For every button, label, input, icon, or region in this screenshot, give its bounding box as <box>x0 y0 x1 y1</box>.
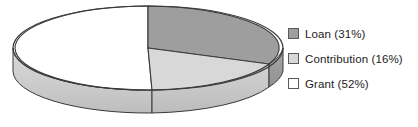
legend-label-grant: Grant (52%) <box>305 78 369 90</box>
legend-swatch-grant <box>288 78 299 89</box>
legend-swatch-contribution <box>288 53 299 64</box>
legend-swatch-loan <box>288 28 299 39</box>
legend-item-loan[interactable]: Loan (31%) <box>288 21 418 46</box>
pie-top-face <box>13 6 283 90</box>
legend-item-grant[interactable]: Grant (52%) <box>288 71 418 96</box>
pie-chart-figure: Loan (31%) Contribution (16%) Grant (52%… <box>0 0 418 127</box>
legend-label-contribution: Contribution (16%) <box>305 53 403 65</box>
chart-legend: Loan (31%) Contribution (16%) Grant (52%… <box>288 21 418 96</box>
legend-item-contribution[interactable]: Contribution (16%) <box>288 46 418 71</box>
legend-label-loan: Loan (31%) <box>305 28 365 40</box>
